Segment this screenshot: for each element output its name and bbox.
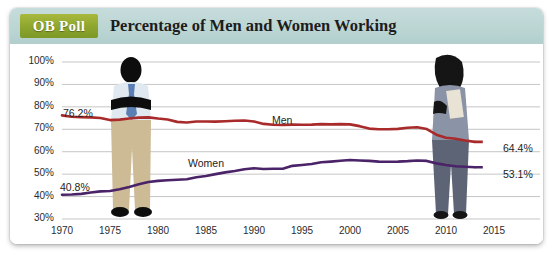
line-chart <box>10 44 543 244</box>
y-tick-70: 70% <box>14 122 54 133</box>
y-tick-40: 40% <box>14 190 54 201</box>
y-tick-90: 90% <box>14 77 54 88</box>
x-tick-1985: 1985 <box>183 225 229 236</box>
x-tick-1970: 1970 <box>39 225 85 236</box>
woman-head <box>441 60 459 84</box>
x-tick-2015: 2015 <box>471 225 517 236</box>
men-end-value: 64.4% <box>503 142 533 154</box>
man-shoe-left <box>111 207 129 217</box>
woman-shoe-left <box>434 211 449 219</box>
y-tick-50: 50% <box>14 167 54 178</box>
series-label-men: Men <box>272 114 292 126</box>
y-tick-80: 80% <box>14 100 54 111</box>
men-start-value: 76.2% <box>63 107 93 119</box>
ob-poll-badge: OB Poll <box>20 14 98 38</box>
x-tick-1990: 1990 <box>231 225 277 236</box>
woman-illustration <box>432 55 469 219</box>
chart-header: OB Poll Percentage of Men and Women Work… <box>10 8 543 45</box>
y-tick-30: 30% <box>14 212 54 223</box>
plot-area: 30%40%50%60%70%80%90%100% 19701975198019… <box>10 44 543 244</box>
man-shoe-right <box>134 207 152 217</box>
x-tick-1995: 1995 <box>279 225 325 236</box>
x-tick-2005: 2005 <box>375 225 421 236</box>
series-label-women: Women <box>188 157 224 169</box>
woman-shoe-right <box>453 211 468 219</box>
x-tick-2010: 2010 <box>423 225 469 236</box>
x-tick-1980: 1980 <box>135 225 181 236</box>
page-title: Percentage of Men and Women Working <box>110 15 396 37</box>
x-tick-2000: 2000 <box>327 225 373 236</box>
y-tick-100: 100% <box>14 55 54 66</box>
man-head <box>121 57 142 83</box>
x-tick-1975: 1975 <box>87 225 133 236</box>
figure-layer <box>111 55 469 219</box>
man-illustration <box>111 57 152 217</box>
woman-pants <box>432 140 469 214</box>
women-end-value: 53.1% <box>503 168 533 180</box>
y-tick-60: 60% <box>14 145 54 156</box>
chart-card: OB Poll Percentage of Men and Women Work… <box>10 8 543 244</box>
women-start-value: 40.8% <box>60 181 90 193</box>
